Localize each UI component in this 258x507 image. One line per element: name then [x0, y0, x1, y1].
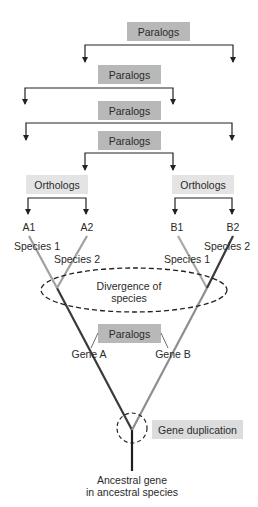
paralogs-bracket-4: Paralogs [82, 131, 176, 171]
bracket-line [85, 45, 233, 62]
arrow-down-icon [25, 209, 31, 215]
pointer-line [91, 333, 98, 348]
divergence-label-line2: species [111, 292, 147, 304]
paralogs-label: Paralogs [109, 135, 150, 147]
leaf-b2-label: B2 [227, 221, 240, 233]
paralogs-label: Paralogs [109, 105, 150, 117]
arrow-down-icon [230, 57, 236, 63]
orthologs-bracket-left: Orthologs [25, 175, 89, 215]
paralogs-label: Paralogs [138, 26, 179, 38]
gene-a-label: Gene A [71, 348, 106, 360]
species-label-b2: Species 2 [204, 240, 250, 252]
orthologs-label: Orthologs [34, 179, 80, 191]
species-label-a1: Species 1 [14, 240, 60, 252]
arrow-down-icon [172, 209, 178, 215]
pointer-line [161, 333, 168, 348]
arrow-down-icon [23, 135, 29, 141]
orthologs-label: Orthologs [180, 179, 226, 191]
leaf-a1-label: A1 [23, 221, 36, 233]
inner-paralogs: Paralogs [91, 324, 168, 348]
leaf-a2-label: A2 [81, 221, 94, 233]
arrow-down-icon [170, 99, 176, 105]
ancestral-label-line1: Ancestral gene [97, 474, 167, 486]
gene-b-label: Gene B [155, 348, 191, 360]
leaf-b1-label: B1 [171, 221, 184, 233]
arrow-down-icon [82, 57, 88, 63]
arrow-down-icon [229, 135, 235, 141]
arrow-down-icon [22, 99, 28, 105]
orthologs-bracket-right: Orthologs [172, 175, 235, 215]
divergence-label-line1: Divergence of [97, 280, 162, 292]
ancestral-label-line2: in ancestral species [86, 486, 178, 498]
paralogs-bracket-1: Paralogs [82, 22, 236, 63]
paralogs-bracket-2: Paralogs [22, 65, 176, 105]
species-label-a2: Species 2 [54, 253, 100, 265]
bracket-line [28, 198, 86, 214]
duplication-label: Gene duplication [158, 424, 237, 436]
arrow-down-icon [82, 165, 88, 171]
paralogs-label: Paralogs [109, 328, 150, 340]
paralogs-label: Paralogs [109, 69, 150, 81]
arrow-down-icon [229, 209, 235, 215]
species-label-b1: Species 1 [164, 253, 210, 265]
arrow-down-icon [170, 165, 176, 171]
gene-tree-diagram: Paralogs Paralogs Paralogs Paralogs Orth… [0, 0, 258, 507]
bracket-line [175, 198, 232, 214]
arrow-down-icon [83, 209, 89, 215]
bracket-line [85, 153, 173, 170]
